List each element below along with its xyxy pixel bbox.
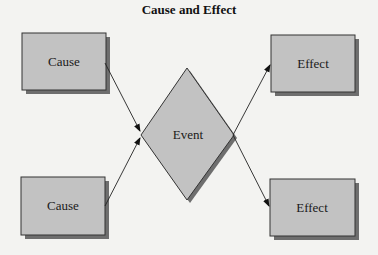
arrow-cause-top-to-event xyxy=(105,63,140,131)
arrow-event-to-effect-bottom xyxy=(233,135,269,206)
event-label: Event xyxy=(173,127,204,142)
effect-box-top: Effect xyxy=(271,35,359,96)
effect-top-label: Effect xyxy=(297,56,329,71)
cause-box-bottom: Cause xyxy=(21,177,109,239)
event-diamond: Event xyxy=(141,68,237,203)
arrow-event-to-effect-top xyxy=(233,65,270,135)
effect-box-bottom: Effect xyxy=(270,179,359,240)
cause-top-label: Cause xyxy=(48,54,80,69)
arrow-cause-bottom-to-event xyxy=(105,138,140,206)
cause-bottom-label: Cause xyxy=(47,198,79,213)
cause-box-top: Cause xyxy=(22,33,110,94)
diagram-canvas: Cause Cause Effect Effect Event xyxy=(0,0,378,255)
effect-bottom-label: Effect xyxy=(296,200,328,215)
